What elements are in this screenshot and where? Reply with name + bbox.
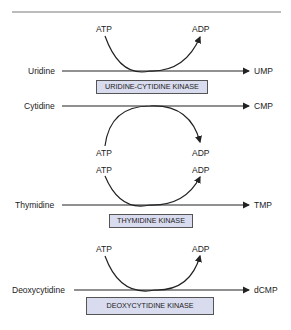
substrate-deoxycytidine: Deoxycytidine <box>12 285 65 295</box>
product-ump: UMP <box>254 66 273 76</box>
adp-label-1: ADP <box>192 24 209 34</box>
product-dcmp: dCMP <box>254 285 278 295</box>
adp-label-4: ADP <box>192 244 209 254</box>
atp-adp-arc-1 <box>105 36 200 72</box>
enzyme-thymidine-kinase: THYMIDINE KINASE <box>109 214 193 228</box>
substrate-uridine: Uridine <box>28 66 55 76</box>
atp-adp-arc-3 <box>105 176 200 206</box>
atp-label-2: ATP <box>96 148 112 158</box>
atp-adp-arc-4 <box>105 256 200 291</box>
enzyme-uridine-cytidine-kinase: URIDINE-CYTIDINE KINASE <box>96 80 208 94</box>
product-cmp: CMP <box>254 101 273 111</box>
substrate-thymidine: Thymidine <box>15 200 54 210</box>
product-tmp: TMP <box>254 200 272 210</box>
substrate-cytidine: Cytidine <box>24 101 55 111</box>
atp-label-4: ATP <box>96 244 112 254</box>
atp-label-3: ATP <box>96 165 112 175</box>
pathway-lines <box>0 0 291 330</box>
adp-label-2: ADP <box>192 148 209 158</box>
atp-label-1: ATP <box>96 24 112 34</box>
enzyme-deoxycytidine-kinase: DEOXYCYTIDINE KINASE <box>86 297 214 315</box>
adp-label-3: ADP <box>192 165 209 175</box>
atp-adp-arc-2 <box>105 106 200 146</box>
